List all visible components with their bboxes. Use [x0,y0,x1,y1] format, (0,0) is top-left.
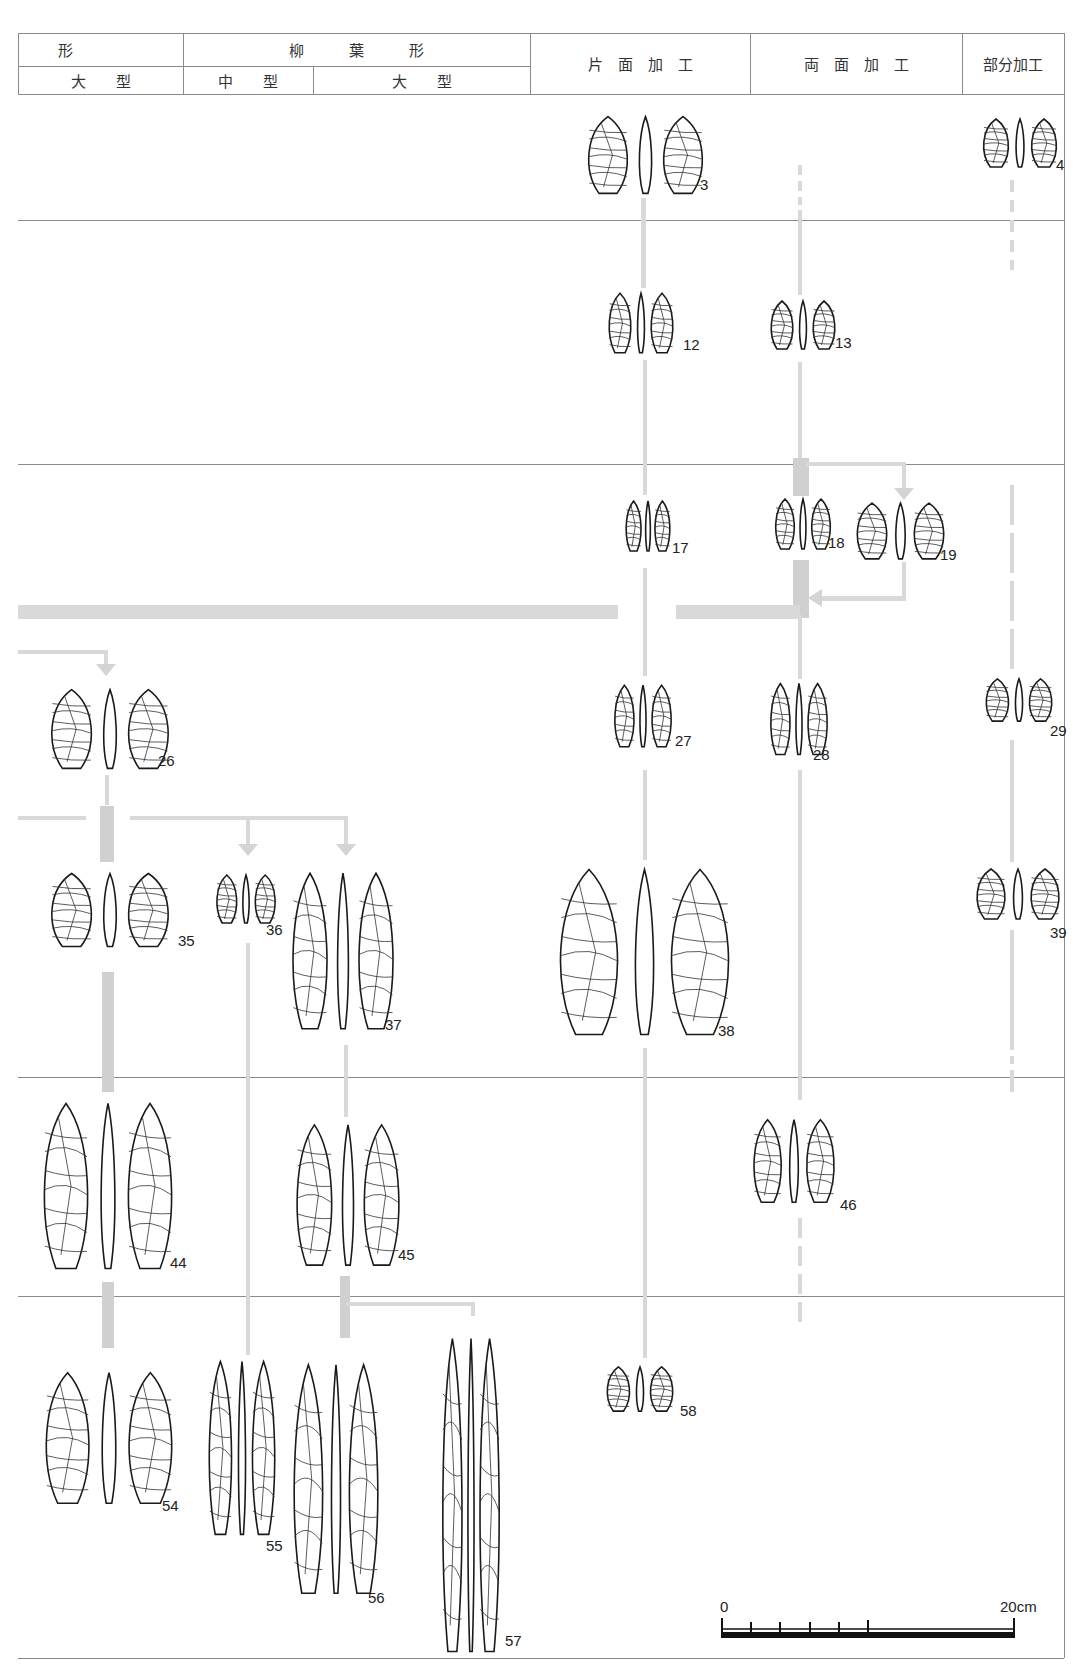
arrow-down-icon [336,844,356,856]
artifact-number-label: 19 [940,546,957,563]
artifact-55-drawing [206,1358,278,1538]
row-divider-1 [18,220,1064,221]
artifact-number-label: 56 [368,1589,385,1606]
artifact-number-label: 39 [1050,924,1067,941]
artifact-number-label: 3 [700,176,708,193]
connector-unifacial-5 [643,1048,647,1358]
artifact-17-drawing [624,500,672,552]
artifact-56-drawing [290,1360,382,1598]
scale-bar [720,1618,1020,1642]
arrow-down-icon [238,844,258,856]
connector-45-56 [340,1276,350,1338]
connector-branch-57-down [471,1302,475,1316]
row-divider-2 [18,464,1064,465]
arrow-down-icon [894,488,914,500]
artifact-number-label: 38 [718,1022,735,1039]
connector-horizontal-band-right [676,605,800,619]
connector-bifacial-3 [798,362,802,460]
artifact-29-drawing [983,678,1055,722]
artifact-27-drawing [612,684,674,748]
header-cell-bifacial: 両 面 加 工 [750,33,962,94]
header-cell-partial: 部分加工 [962,33,1064,94]
connector-unifacial-2 [643,360,647,495]
header-cell-unifacial: 片 面 加 工 [530,33,750,94]
artifact-number-label: 17 [672,539,689,556]
header-cell-ryuyokei: 柳 葉 形 [183,33,530,66]
artifact-number-label: 44 [170,1254,187,1271]
connector-branch-36-down [246,816,250,846]
connector-bifacial-4 [798,615,802,679]
frame-bottom-border [18,1658,1064,1659]
artifact-45-drawing [292,1122,404,1268]
artifact-number-label: 58 [680,1402,697,1419]
connector-partial-4 [1010,930,1014,1092]
artifact-39-drawing [973,868,1063,920]
connector-35-44 [102,972,114,1092]
artifact-number-label: 45 [398,1246,415,1263]
connector-bifacial-branch-19 [806,462,906,466]
artifact-36-drawing [214,874,278,924]
connector-branch-57 [346,1302,474,1306]
artifact-number-label: 55 [266,1537,283,1554]
artifact-26-drawing [46,688,174,770]
artifact-44-drawing [38,1100,178,1272]
header-cell-medium: 中 型 [183,66,313,94]
arrow-left-icon [808,589,822,607]
artifact-number-label: 12 [683,336,700,353]
connector-44-54 [102,1282,114,1348]
artifact-54-drawing [40,1370,178,1506]
connector-branch-36-37 [130,816,348,820]
connector-unifacial-4 [643,770,647,860]
artifact-18-drawing [773,498,833,550]
artifact-57-drawing [440,1332,502,1658]
header-cell-large-1: 大 型 [18,66,183,94]
frame-right-border [1064,33,1065,1658]
connector-unifacial-1 [641,198,646,288]
connector-26-in [18,650,108,654]
artifact-number-label: 26 [158,752,175,769]
artifact-number-label: 36 [266,921,283,938]
connector-partial-2 [1010,485,1014,675]
scale-end-label: 20cm [1000,1598,1037,1615]
connector-26-35-thick [100,806,114,862]
connector-bifacial-5 [798,770,802,1100]
artifact-4-drawing [980,118,1060,168]
connector-36-55 [246,943,250,1355]
artifact-number-label: 54 [162,1497,179,1514]
artifact-number-label: 57 [505,1632,522,1649]
header-bottom-border [18,94,1064,95]
artifact-number-label: 28 [813,746,830,763]
connector-26-35 [105,775,109,805]
artifact-28-drawing [768,682,830,756]
artifact-46-drawing [750,1118,838,1204]
artifact-12-drawing [606,292,676,354]
artifact-number-label: 29 [1050,722,1067,739]
connector-unifacial-3 [643,568,647,676]
connector-bifacial-6 [798,1218,802,1330]
artifact-58-drawing [604,1366,676,1412]
artifact-37-drawing [288,870,398,1032]
scale-start-label: 0 [720,1598,728,1615]
artifact-35-drawing [46,872,174,948]
connector-partial-1 [1010,180,1014,270]
artifact-13-drawing [768,300,838,350]
connector-bifacial-branch-19-down [902,462,906,490]
artifact-number-label: 4 [1056,156,1064,173]
header-cell-large-2: 大 型 [313,66,530,94]
connector-37-45 [344,1045,348,1117]
artifact-3-drawing [583,115,708,195]
connector-horizontal-band-left [18,605,618,619]
connector-19-return [902,562,906,598]
artifact-number-label: 18 [828,534,845,551]
arrow-down-icon [96,664,116,676]
artifact-number-label: 27 [675,732,692,749]
artifact-number-label: 37 [385,1016,402,1033]
artifact-38-drawing [552,866,737,1038]
artifact-number-label: 35 [178,932,195,949]
connector-left-stub [18,816,86,820]
artifact-number-label: 13 [835,334,852,351]
connector-19-return-h [822,596,906,601]
header-cell-kei: 形 [18,33,183,66]
connector-bifacial-2 [798,210,802,295]
artifact-number-label: 46 [840,1196,857,1213]
